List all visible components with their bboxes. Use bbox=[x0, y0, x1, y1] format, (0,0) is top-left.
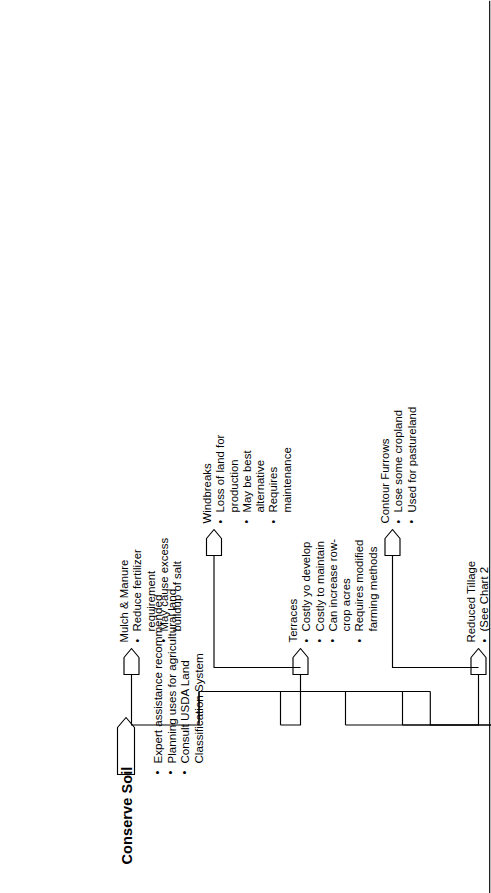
node-bullet: Requires maintenance bbox=[266, 401, 293, 523]
page-title: Conserve Soil bbox=[118, 766, 134, 864]
node-heading: Terraces bbox=[286, 530, 299, 642]
rotated-chart-wrapper: Conserve Soil Expert assistance recommen… bbox=[0, 0, 491, 893]
node-contour-furrows[interactable]: Contour Furrows Lose some cropland Used … bbox=[378, 401, 418, 523]
node-bullet: Costly yo develop bbox=[299, 530, 312, 642]
node-mulch-manure[interactable]: Mulch & Manure Reduce fertilizer require… bbox=[117, 530, 183, 642]
node-bullet: Loss of land for production bbox=[213, 406, 240, 523]
node-terraces[interactable]: Terraces Costly yo develop Costly to mai… bbox=[286, 530, 379, 642]
node-bullet: May be best alternative bbox=[240, 401, 267, 523]
diagram-canvas: Conserve Soil Expert assistance recommen… bbox=[0, 0, 491, 893]
node-bullet: Can increase row-crop acres bbox=[326, 530, 353, 642]
node-bullet: May cause excess buildup of salt bbox=[157, 530, 184, 642]
node-bullet: Reduce fertilizer requirement bbox=[130, 530, 157, 642]
node-bullet: Used for pastureland bbox=[405, 401, 418, 523]
node-bullet: Costly to maintain bbox=[313, 530, 326, 642]
node-heading: Windbreaks bbox=[200, 401, 213, 523]
flowchart: Conserve Soil Expert assistance recommen… bbox=[0, 0, 491, 893]
node-bullet: Lose some cropland bbox=[391, 401, 404, 523]
node-windbreaks[interactable]: Windbreaks Loss of land for production M… bbox=[200, 401, 293, 523]
node-bullet: (See Chart 2 Tillage Systems) bbox=[477, 549, 491, 642]
node-bullet: Requires modified farming methods bbox=[352, 530, 379, 642]
node-heading: Reduced Tillage bbox=[464, 542, 477, 642]
node-heading: Contour Furrows bbox=[378, 401, 391, 523]
node-reduced-tillage[interactable]: Reduced Tillage (See Chart 2 Tillage Sys… bbox=[464, 542, 491, 642]
node-heading: Mulch & Manure bbox=[117, 530, 130, 642]
